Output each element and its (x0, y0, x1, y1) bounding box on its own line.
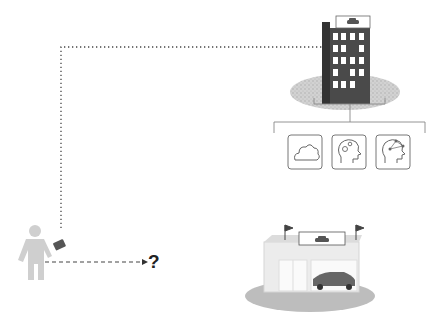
customer-to-unknown-arrow (45, 259, 148, 265)
customer-person (18, 225, 66, 280)
person-body (18, 239, 52, 280)
customer-to-company-dotted-link (61, 47, 322, 228)
service-ai-brain (332, 135, 366, 169)
car-dealership (245, 225, 375, 312)
unknown-destination-question-mark: ? (148, 252, 160, 271)
person-head (29, 225, 41, 237)
service-cloud (288, 135, 322, 169)
wallet-icon (53, 239, 66, 251)
company-building (290, 16, 400, 110)
diagram-canvas (0, 0, 444, 322)
service-ai-network (376, 135, 410, 169)
